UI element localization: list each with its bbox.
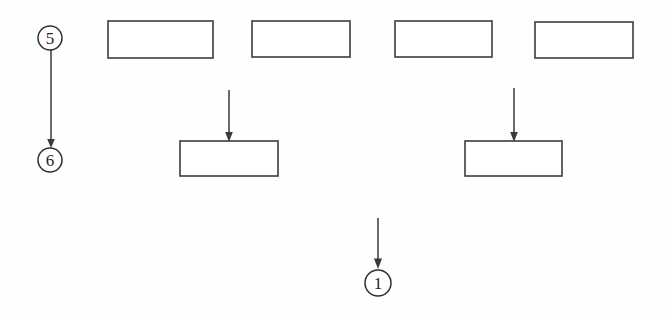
arrow-into-ref-1 (374, 218, 382, 269)
arrow-5-to-6 (47, 50, 55, 148)
reference-numeral-5[interactable]: 5 (38, 26, 62, 50)
figure-canvas: 5 6 1 (0, 0, 671, 320)
box-mid-2[interactable] (465, 141, 562, 176)
reference-numeral-6[interactable]: 6 (38, 148, 62, 172)
box-top-3[interactable] (395, 21, 492, 57)
box-mid-1[interactable] (180, 141, 278, 176)
diagram-svg: 5 6 1 (0, 0, 671, 320)
box-top-1[interactable] (108, 21, 213, 58)
box-top-4[interactable] (535, 22, 633, 58)
ref-1-label: 1 (374, 274, 383, 293)
ref-6-label: 6 (46, 151, 55, 170)
reference-numeral-1[interactable]: 1 (365, 270, 391, 296)
arrow-into-mid-1 (225, 90, 233, 142)
arrow-into-mid-2 (510, 88, 518, 142)
ref-5-label: 5 (46, 29, 55, 48)
box-top-2[interactable] (252, 21, 350, 57)
